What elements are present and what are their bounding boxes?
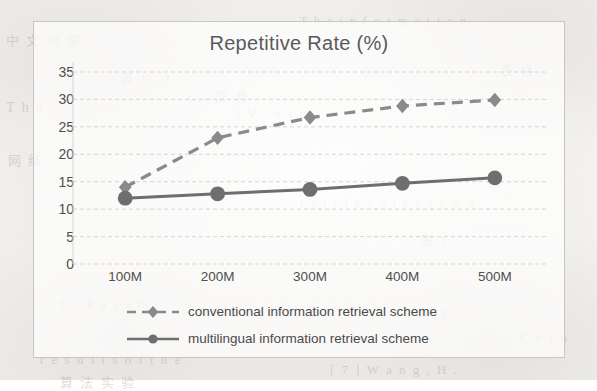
y-tick-label: 35	[58, 64, 74, 80]
y-tick-label: 30	[58, 91, 74, 107]
y-tick-label: 20	[58, 146, 74, 162]
legend-key-dashed-diamond	[125, 304, 181, 320]
data-point	[118, 191, 133, 206]
legend-key-solid-circle	[125, 331, 181, 347]
x-tick-label: 100M	[108, 269, 142, 284]
legend-label-multilingual: multilingual information retrieval schem…	[188, 331, 429, 346]
y-axis-tick-labels: 05101520253035	[40, 72, 74, 264]
legend-label-conventional: conventional information retrieval schem…	[188, 304, 437, 319]
chart-frame: Repetitive Rate (%) 05101520253035 100M2…	[33, 21, 565, 358]
plot-svg	[79, 72, 541, 264]
data-point	[395, 176, 410, 191]
data-point	[304, 110, 317, 124]
bleed-text: [ 7 ] W a n g , H .	[330, 362, 459, 378]
x-tick-label: 400M	[386, 269, 420, 284]
data-point	[303, 182, 318, 197]
data-point	[487, 170, 502, 185]
data-point	[211, 131, 224, 145]
x-tick-label: 500M	[478, 269, 512, 284]
legend-item-multilingual: multilingual information retrieval schem…	[34, 325, 564, 352]
x-tick-label: 300M	[293, 269, 327, 284]
data-point	[488, 93, 501, 107]
data-point	[210, 186, 225, 201]
legend-item-conventional: conventional information retrieval schem…	[34, 298, 564, 325]
chart-title: Repetitive Rate (%)	[34, 32, 564, 55]
bleed-text: 算 法 实 验	[60, 372, 136, 391]
chart-legend: conventional information retrieval schem…	[34, 298, 564, 352]
data-point	[396, 99, 409, 113]
plot-area	[79, 72, 541, 264]
x-axis-tick-labels: 100M200M300M400M500M	[79, 269, 541, 291]
y-tick-label: 15	[58, 174, 74, 190]
x-tick-label: 200M	[201, 269, 235, 284]
y-tick-label: 10	[58, 201, 74, 217]
y-tick-label: 25	[58, 119, 74, 135]
